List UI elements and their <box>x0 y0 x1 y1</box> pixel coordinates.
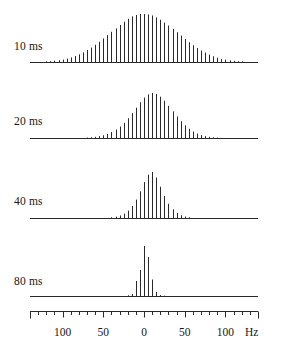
panel-40ms: 40 ms <box>0 158 283 238</box>
x-axis-ticks <box>0 310 283 326</box>
panel-10ms: 10 ms <box>0 0 283 78</box>
x-axis-tick-label: 50 <box>179 326 191 338</box>
x-axis-tick-label: 100 <box>217 326 234 338</box>
x-axis-tick-labels: 10050050100 <box>0 326 283 346</box>
spectrum-plot-80ms <box>0 238 283 310</box>
x-axis: 10050050100 Hz <box>0 310 283 356</box>
spectra-figure: 10 ms 20 ms 40 ms 80 ms 10050050100 Hz <box>0 0 283 356</box>
x-axis-tick-label: 100 <box>54 326 71 338</box>
spectrum-plot-10ms <box>0 0 283 78</box>
panel-20ms: 20 ms <box>0 78 283 158</box>
x-axis-tick-label: 50 <box>98 326 110 338</box>
spectrum-plot-40ms <box>0 158 283 238</box>
x-axis-tick-label: 0 <box>141 326 147 338</box>
panel-80ms: 80 ms <box>0 238 283 310</box>
x-axis-unit-label: Hz <box>245 326 258 338</box>
spectrum-plot-20ms <box>0 78 283 158</box>
